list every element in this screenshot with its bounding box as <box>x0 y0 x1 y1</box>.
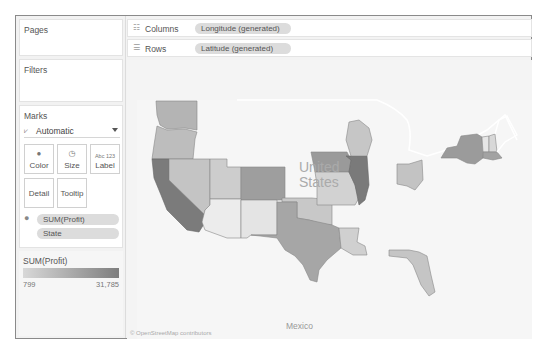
longitude-pill-label: Longitude (generated) <box>201 24 280 33</box>
state-colorado <box>241 167 285 200</box>
rows-label: Rows <box>145 44 166 54</box>
columns-shelf[interactable]: ☷ Columns Longitude (generated) <box>127 19 532 37</box>
legend-min: 799 <box>23 280 36 289</box>
detail-button-label: Detail <box>29 189 49 198</box>
legend-gradient <box>23 268 119 278</box>
color-button-label: Color <box>29 161 48 170</box>
longitude-pill[interactable]: Longitude (generated) <box>195 23 291 34</box>
color-icon: ● <box>24 213 29 223</box>
state-pill-label: State <box>43 229 62 238</box>
columns-label: Columns <box>145 24 179 34</box>
marks-card: Marks ⩗ Automatic ●​ Color ◷ Size Abc 12… <box>19 105 123 248</box>
mark-type-dropdown[interactable]: ⩗ Automatic <box>24 124 120 138</box>
country-label-line2: States <box>299 174 339 190</box>
state-washington <box>156 101 197 130</box>
rows-shelf[interactable]: ☰ Rows Latitude (generated) <box>127 39 532 57</box>
country-label-line1: United <box>299 159 339 175</box>
size-button-label: Size <box>64 161 80 170</box>
map-attribution[interactable]: © OpenStreetMap contributors <box>130 330 211 336</box>
left-panel: Pages Filters Marks ⩗ Automatic ●​ Color… <box>16 16 126 338</box>
country-label-mexico: Mexico <box>286 321 313 331</box>
filters-title: Filters <box>24 65 47 75</box>
color-button[interactable]: ●​ Color <box>24 144 54 174</box>
tooltip-button-label: Tooltip <box>60 189 83 198</box>
label-button[interactable]: Abc 123 Label <box>90 144 120 174</box>
state-new-mexico <box>241 200 277 238</box>
size-button[interactable]: ◷ Size <box>57 144 87 174</box>
pages-card[interactable]: Pages <box>19 19 123 56</box>
map-view[interactable]: United States Mexico © OpenStreetMap con… <box>127 60 532 339</box>
sum-profit-pill[interactable]: SUM(Profit) <box>37 214 119 225</box>
legend-max: 31,785 <box>96 280 119 289</box>
marks-title: Marks <box>24 111 47 121</box>
automatic-mark-icon: ⩗ <box>24 127 36 135</box>
color-legend[interactable]: SUM(Profit) 799 31,785 <box>19 251 123 336</box>
rows-icon: ☰ <box>133 43 140 52</box>
pages-title: Pages <box>24 25 48 35</box>
us-state-map[interactable] <box>127 60 532 339</box>
detail-button[interactable]: Detail <box>24 178 54 208</box>
latitude-pill[interactable]: Latitude (generated) <box>195 43 291 54</box>
tableau-worksheet: Pages Filters Marks ⩗ Automatic ●​ Color… <box>15 15 532 339</box>
legend-title: SUM(Profit) <box>23 256 67 266</box>
state-vermont <box>482 136 489 152</box>
state-pill[interactable]: State <box>37 228 119 239</box>
size-icon: ◷ <box>69 149 76 159</box>
label-button-label: Label <box>95 161 115 170</box>
label-icon: Abc 123 <box>95 153 115 159</box>
tooltip-button[interactable]: Tooltip <box>57 178 87 208</box>
sum-profit-pill-label: SUM(Profit) <box>43 215 85 224</box>
state-oregon <box>152 126 197 159</box>
color-icon: ●​ <box>37 149 42 159</box>
chevron-down-icon <box>112 128 118 132</box>
country-label-united-states: United States <box>299 160 339 190</box>
filters-card[interactable]: Filters <box>19 59 123 102</box>
mark-type-label: Automatic <box>36 126 74 136</box>
columns-icon: ☷ <box>133 23 140 32</box>
latitude-pill-label: Latitude (generated) <box>201 44 273 53</box>
